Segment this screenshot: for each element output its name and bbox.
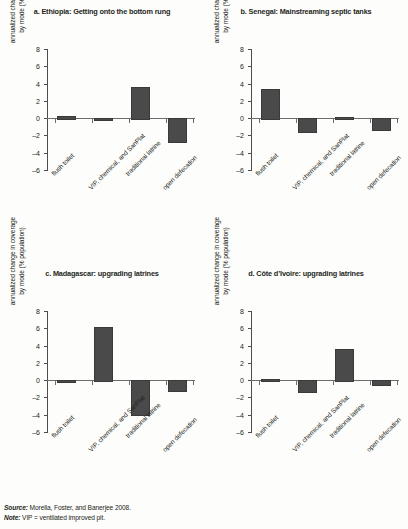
- y-axis-label-line2: by mode (% population): [18, 0, 25, 33]
- y-axis-label-line1: annualized change in coverage: [213, 217, 220, 305]
- x-tick: [92, 381, 93, 385]
- y-axis-label-line1: annualized change in coverage: [9, 217, 16, 305]
- y-tick-label: –2: [32, 132, 40, 139]
- y-tick: 8: [248, 311, 252, 312]
- note-label: Note:: [4, 514, 20, 521]
- source-label: Source:: [4, 504, 28, 511]
- y-tick: 2: [248, 101, 252, 102]
- x-tick: [397, 381, 398, 385]
- bar: [335, 349, 354, 382]
- bar: [168, 380, 187, 392]
- y-tick-label: –4: [236, 149, 244, 156]
- y-axis-label-line2: by mode (% population): [18, 227, 25, 294]
- x-tick: [166, 119, 167, 123]
- x-tick: [129, 119, 130, 123]
- y-tick-label: –4: [32, 411, 40, 418]
- y-tick-label: 2: [240, 97, 244, 104]
- y-tick-label: –2: [236, 394, 244, 401]
- plot-area-c: annualized change in coverage by mode (%…: [0, 262, 204, 524]
- x-tick: [370, 119, 371, 123]
- y-tick-label: 0: [36, 377, 40, 384]
- x-axis-labels-a: flush toiletVIP, chemical, and SanPlattr…: [47, 170, 207, 258]
- x-axis-labels-d: flush toiletVIP, chemical, and SanPlattr…: [251, 432, 408, 520]
- y-tick: 4: [248, 84, 252, 85]
- x-tick: [193, 119, 194, 123]
- x-axis-labels-b: flush toiletVIP, chemical, and SanPlattr…: [251, 170, 408, 258]
- y-tick: –2: [44, 135, 48, 136]
- bar: [261, 379, 280, 382]
- y-tick: –4: [248, 153, 252, 154]
- y-axis-label-line2: by mode (% population): [222, 0, 229, 33]
- bar: [335, 117, 354, 120]
- y-tick: –4: [44, 415, 48, 416]
- y-tick-label: –4: [32, 149, 40, 156]
- y-tick-label: 0: [240, 377, 244, 384]
- x-tick: [397, 119, 398, 123]
- x-tick: [296, 119, 297, 123]
- x-tick: [333, 119, 334, 123]
- y-axis-label-d: annualized change in coverage by mode (%…: [213, 196, 239, 326]
- y-tick-label: –6: [32, 429, 40, 436]
- chart-panel-c: c. Madagascar: upgrading latrines annual…: [0, 262, 204, 524]
- bar: [131, 87, 150, 120]
- x-tick: [296, 381, 297, 385]
- y-tick-label: 4: [36, 80, 40, 87]
- y-tick-label: 2: [240, 359, 244, 366]
- bar: [57, 116, 76, 121]
- y-tick-label: –6: [236, 167, 244, 174]
- y-tick: 2: [44, 363, 48, 364]
- y-tick-label: 0: [240, 115, 244, 122]
- x-tick: [166, 381, 167, 385]
- bar: [168, 118, 187, 143]
- bar: [94, 118, 113, 121]
- y-tick-label: 4: [36, 342, 40, 349]
- bar: [261, 89, 280, 120]
- y-tick-label: 6: [36, 63, 40, 70]
- y-tick-label: –6: [236, 429, 244, 436]
- y-tick-label: 4: [240, 80, 244, 87]
- y-tick: 4: [44, 84, 48, 85]
- y-tick-label: 6: [240, 325, 244, 332]
- x-tick: [193, 381, 194, 385]
- y-tick: 2: [44, 101, 48, 102]
- y-tick-label: 4: [240, 342, 244, 349]
- bar: [94, 327, 113, 382]
- y-tick-label: –6: [32, 167, 40, 174]
- y-tick: 4: [248, 346, 252, 347]
- y-tick-label: 8: [240, 46, 244, 53]
- y-tick: 6: [248, 66, 252, 67]
- y-tick: –2: [248, 397, 252, 398]
- y-tick-label: –2: [236, 132, 244, 139]
- y-axis-label-line1: annualized change in coverage: [213, 0, 220, 43]
- y-tick: 6: [44, 66, 48, 67]
- source-line: Source: Morella, Foster, and Banerjee 20…: [4, 503, 131, 513]
- note-line: Note: VIP = ventilated improved pit.: [4, 513, 131, 523]
- y-tick-label: 2: [36, 359, 40, 366]
- y-tick: –4: [44, 153, 48, 154]
- y-tick-label: 6: [36, 325, 40, 332]
- x-tick: [370, 381, 371, 385]
- x-tick: [129, 381, 130, 385]
- x-tick: [259, 381, 260, 385]
- source-value: Morella, Foster, and Banerjee 2008.: [28, 504, 131, 511]
- y-tick-label: –2: [32, 394, 40, 401]
- y-tick-label: 2: [36, 97, 40, 104]
- note-value: VIP = ventilated improved pit.: [20, 514, 105, 521]
- y-axis-label-b: annualized change in coverage by mode (%…: [213, 0, 239, 64]
- y-tick-label: 0: [36, 115, 40, 122]
- y-tick: 4: [44, 346, 48, 347]
- x-tick: [92, 119, 93, 123]
- bar: [298, 118, 317, 133]
- y-tick: –4: [248, 415, 252, 416]
- y-tick-label: 6: [240, 63, 244, 70]
- x-tick: [55, 119, 56, 123]
- y-tick-label: 8: [240, 308, 244, 315]
- y-axis-label-line1: annualized change in coverage: [9, 0, 16, 43]
- y-tick-label: 8: [36, 46, 40, 53]
- x-tick: [55, 381, 56, 385]
- plot-area-d: annualized change in coverage by mode (%…: [204, 262, 408, 524]
- y-tick: 2: [248, 363, 252, 364]
- y-tick: –2: [44, 397, 48, 398]
- bar: [57, 380, 76, 383]
- chart-panel-d: d. Côte d’Ivoire: upgrading latrines ann…: [204, 262, 408, 524]
